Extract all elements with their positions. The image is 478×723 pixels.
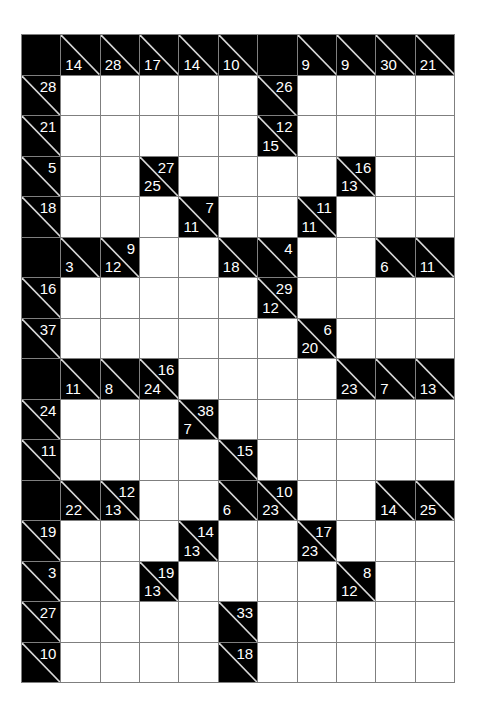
entry-cell[interactable]: [140, 440, 178, 480]
entry-cell[interactable]: [258, 359, 296, 399]
entry-cell[interactable]: [219, 116, 257, 156]
entry-cell[interactable]: [219, 157, 257, 197]
entry-cell[interactable]: [298, 643, 336, 683]
entry-cell[interactable]: [179, 116, 217, 156]
entry-cell[interactable]: [101, 562, 139, 602]
entry-cell[interactable]: [219, 400, 257, 440]
entry-cell[interactable]: [298, 278, 336, 318]
entry-cell[interactable]: [140, 197, 178, 237]
entry-cell[interactable]: [101, 278, 139, 318]
entry-cell[interactable]: [61, 278, 99, 318]
entry-cell[interactable]: [219, 76, 257, 116]
entry-cell[interactable]: [376, 521, 414, 561]
entry-cell[interactable]: [376, 278, 414, 318]
entry-cell[interactable]: [140, 643, 178, 683]
entry-cell[interactable]: [140, 481, 178, 521]
entry-cell[interactable]: [376, 116, 414, 156]
entry-cell[interactable]: [416, 197, 454, 237]
entry-cell[interactable]: [298, 602, 336, 642]
entry-cell[interactable]: [258, 643, 296, 683]
entry-cell[interactable]: [101, 400, 139, 440]
entry-cell[interactable]: [416, 440, 454, 480]
entry-cell[interactable]: [61, 116, 99, 156]
entry-cell[interactable]: [258, 562, 296, 602]
entry-cell[interactable]: [179, 359, 217, 399]
entry-cell[interactable]: [101, 116, 139, 156]
entry-cell[interactable]: [140, 238, 178, 278]
entry-cell[interactable]: [376, 440, 414, 480]
entry-cell[interactable]: [219, 197, 257, 237]
entry-cell[interactable]: [337, 602, 375, 642]
entry-cell[interactable]: [298, 157, 336, 197]
entry-cell[interactable]: [416, 521, 454, 561]
entry-cell[interactable]: [61, 602, 99, 642]
entry-cell[interactable]: [61, 521, 99, 561]
entry-cell[interactable]: [179, 319, 217, 359]
entry-cell[interactable]: [337, 481, 375, 521]
entry-cell[interactable]: [376, 319, 414, 359]
entry-cell[interactable]: [179, 440, 217, 480]
entry-cell[interactable]: [337, 643, 375, 683]
entry-cell[interactable]: [179, 602, 217, 642]
entry-cell[interactable]: [61, 157, 99, 197]
entry-cell[interactable]: [416, 76, 454, 116]
entry-cell[interactable]: [140, 116, 178, 156]
entry-cell[interactable]: [258, 521, 296, 561]
entry-cell[interactable]: [376, 76, 414, 116]
entry-cell[interactable]: [376, 157, 414, 197]
entry-cell[interactable]: [376, 602, 414, 642]
entry-cell[interactable]: [337, 521, 375, 561]
entry-cell[interactable]: [416, 602, 454, 642]
entry-cell[interactable]: [416, 319, 454, 359]
entry-cell[interactable]: [61, 400, 99, 440]
entry-cell[interactable]: [416, 643, 454, 683]
entry-cell[interactable]: [61, 643, 99, 683]
entry-cell[interactable]: [258, 197, 296, 237]
entry-cell[interactable]: [219, 319, 257, 359]
entry-cell[interactable]: [101, 440, 139, 480]
entry-cell[interactable]: [179, 278, 217, 318]
entry-cell[interactable]: [179, 76, 217, 116]
entry-cell[interactable]: [258, 440, 296, 480]
entry-cell[interactable]: [101, 521, 139, 561]
entry-cell[interactable]: [298, 562, 336, 602]
entry-cell[interactable]: [219, 278, 257, 318]
entry-cell[interactable]: [258, 319, 296, 359]
entry-cell[interactable]: [140, 278, 178, 318]
entry-cell[interactable]: [179, 643, 217, 683]
entry-cell[interactable]: [101, 602, 139, 642]
entry-cell[interactable]: [376, 643, 414, 683]
entry-cell[interactable]: [298, 400, 336, 440]
entry-cell[interactable]: [337, 238, 375, 278]
entry-cell[interactable]: [298, 440, 336, 480]
entry-cell[interactable]: [61, 440, 99, 480]
entry-cell[interactable]: [337, 440, 375, 480]
entry-cell[interactable]: [337, 400, 375, 440]
entry-cell[interactable]: [376, 400, 414, 440]
entry-cell[interactable]: [376, 562, 414, 602]
entry-cell[interactable]: [101, 76, 139, 116]
entry-cell[interactable]: [219, 359, 257, 399]
entry-cell[interactable]: [337, 197, 375, 237]
entry-cell[interactable]: [179, 481, 217, 521]
entry-cell[interactable]: [376, 197, 414, 237]
entry-cell[interactable]: [298, 359, 336, 399]
entry-cell[interactable]: [337, 116, 375, 156]
entry-cell[interactable]: [416, 157, 454, 197]
entry-cell[interactable]: [416, 278, 454, 318]
entry-cell[interactable]: [101, 643, 139, 683]
entry-cell[interactable]: [101, 319, 139, 359]
entry-cell[interactable]: [140, 76, 178, 116]
entry-cell[interactable]: [61, 319, 99, 359]
entry-cell[interactable]: [179, 238, 217, 278]
entry-cell[interactable]: [298, 116, 336, 156]
entry-cell[interactable]: [140, 521, 178, 561]
entry-cell[interactable]: [219, 521, 257, 561]
entry-cell[interactable]: [298, 238, 336, 278]
entry-cell[interactable]: [258, 602, 296, 642]
entry-cell[interactable]: [337, 76, 375, 116]
entry-cell[interactable]: [298, 481, 336, 521]
entry-cell[interactable]: [61, 76, 99, 116]
entry-cell[interactable]: [337, 319, 375, 359]
entry-cell[interactable]: [219, 562, 257, 602]
